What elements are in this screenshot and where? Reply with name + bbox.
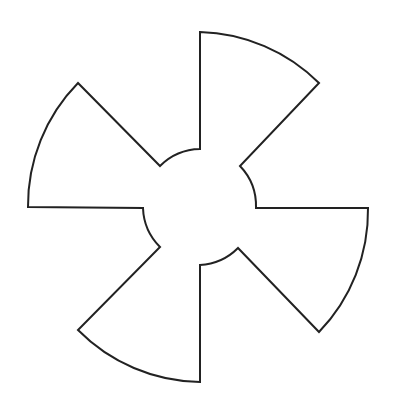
propeller-diagram: [0, 0, 394, 420]
propeller-outline: [28, 32, 368, 382]
